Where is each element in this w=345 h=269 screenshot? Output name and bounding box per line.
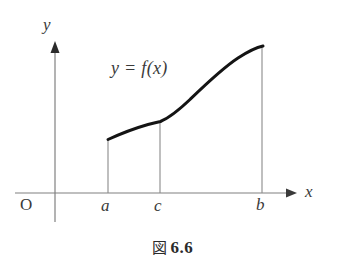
x-axis-arrow-icon xyxy=(286,189,297,198)
tick-label-a: a xyxy=(101,197,110,214)
x-axis-label: x xyxy=(305,183,313,200)
function-plot xyxy=(0,0,345,269)
origin-label: O xyxy=(20,196,32,213)
figure-container: y x O a c b y = f(x) 図6.6 xyxy=(0,0,345,269)
y-axis-label: y xyxy=(43,16,51,33)
tick-label-b: b xyxy=(256,196,265,213)
caption-number: 6.6 xyxy=(170,238,193,257)
caption-figure-glyph: 図 xyxy=(152,240,171,256)
tick-label-c: c xyxy=(154,197,162,214)
figure-caption: 図6.6 xyxy=(0,236,345,258)
y-axis-arrow-icon xyxy=(51,41,60,53)
curve-equation-label: y = f(x) xyxy=(111,59,168,77)
